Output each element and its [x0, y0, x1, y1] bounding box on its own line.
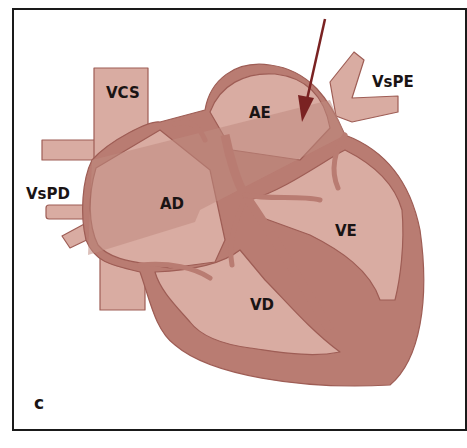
heart-diagram-figure: VCS VsPE VsPD AE AD VE VD c: [0, 0, 467, 448]
label-vspe: VsPE: [372, 73, 414, 91]
label-ad: AD: [160, 195, 184, 213]
label-vcs: VCS: [106, 84, 140, 102]
label-vd: VD: [250, 296, 274, 314]
label-ve: VE: [335, 222, 357, 240]
label-vspd: VsPD: [26, 185, 70, 203]
label-ae: AE: [249, 104, 271, 122]
panel-letter: c: [34, 393, 44, 413]
vspd-vessel-upper: [42, 140, 102, 160]
vspd-vessel-middle: [46, 205, 86, 219]
